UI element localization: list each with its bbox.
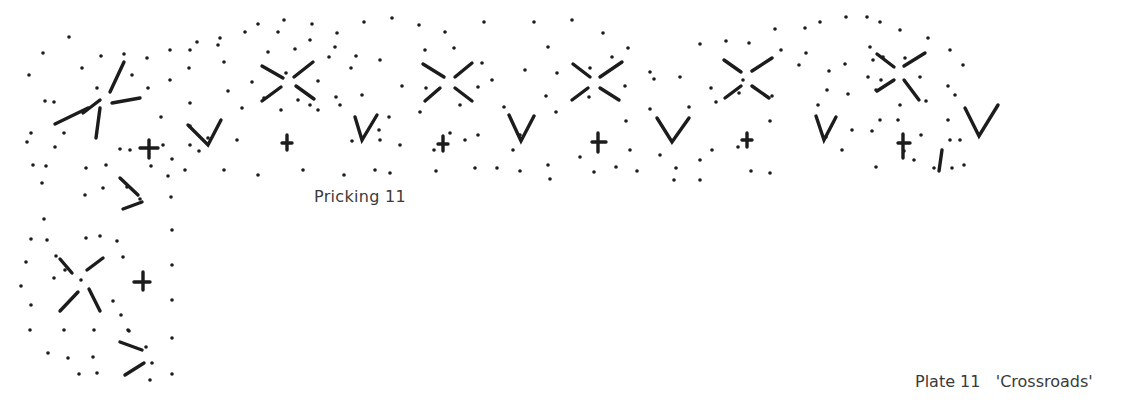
pin-hole-dot: [592, 170, 596, 174]
pin-hole-dot: [138, 197, 142, 201]
pin-hole-dot: [648, 107, 652, 111]
pin-hole-dot: [865, 15, 869, 19]
pin-hole-dot: [946, 84, 950, 88]
pin-hole-dot: [523, 68, 527, 72]
pin-hole-dot: [490, 78, 494, 82]
stitch-mark: [904, 53, 925, 66]
pin-hole-dot: [770, 94, 774, 98]
stitch-mark: [355, 115, 377, 140]
stitch-mark: [55, 108, 88, 124]
pin-hole-dot: [710, 148, 714, 152]
pin-hole-dot: [104, 163, 108, 167]
pin-hole-dot: [946, 118, 950, 122]
stitch-mark: [877, 54, 894, 67]
pin-hole-dot: [354, 54, 358, 58]
pin-hole-dot: [912, 158, 916, 162]
pin-hole-dot: [144, 345, 148, 349]
stitch-mark: [877, 80, 894, 91]
pin-hole-dot: [434, 169, 438, 173]
pin-hole-dot: [80, 66, 84, 70]
pin-hole-dot: [961, 63, 965, 67]
stitch-mark: [296, 86, 314, 99]
pin-hole-dot: [29, 131, 33, 135]
pin-hole-dot: [390, 16, 394, 20]
stitch-mark: [600, 88, 619, 100]
pin-hole-dot: [378, 138, 382, 142]
stitch-mark: [724, 60, 741, 72]
pin-hole-dot: [587, 95, 591, 99]
pin-hole-dot: [463, 138, 467, 142]
pin-hole-dot: [279, 108, 283, 112]
pin-hole-dot: [99, 54, 103, 58]
pin-hole-dot: [458, 103, 462, 107]
pin-hole-dot: [42, 217, 46, 221]
pin-hole-dot: [83, 193, 87, 197]
pin-hole-dot: [52, 100, 56, 104]
stitch-mark: [188, 120, 221, 145]
stitch-mark: [438, 136, 448, 151]
pin-hole-dot: [79, 278, 83, 282]
stitch-mark: [134, 272, 150, 290]
pin-hole-dot: [222, 168, 226, 172]
pin-hole-dot: [874, 165, 878, 169]
pin-hole-dot: [903, 56, 907, 60]
pin-hole-dot: [40, 181, 44, 185]
pin-hole-dot: [797, 63, 801, 67]
stitch-mark: [425, 88, 440, 101]
pin-hole-dot: [128, 148, 132, 152]
stitch-mark: [455, 63, 472, 77]
pin-hole-dot: [282, 18, 286, 22]
pin-hole-dot: [350, 139, 354, 143]
stitch-mark: [816, 116, 836, 140]
pin-hole-dot: [698, 158, 702, 162]
pin-hole-dot: [308, 103, 312, 107]
pin-hole-dot: [749, 169, 753, 173]
pin-hole-dot: [150, 361, 154, 365]
pin-hole-dot: [250, 80, 254, 84]
pin-hole-dot: [149, 164, 153, 168]
pin-hole-dot: [674, 166, 678, 170]
pin-hole-dot: [310, 22, 314, 26]
pin-hole-dot: [126, 328, 130, 332]
pin-hole-dot: [216, 43, 220, 47]
pin-hole-dot: [235, 138, 239, 142]
stitch-mark: [294, 62, 313, 77]
pin-hole-dot: [44, 164, 48, 168]
stitch-mark: [140, 140, 158, 158]
plate-title: 'Crossroads': [996, 372, 1093, 391]
pin-hole-dot: [378, 58, 382, 62]
pin-hole-dot: [918, 75, 922, 79]
pin-hole-dot: [118, 147, 122, 151]
pin-hole-dot: [648, 70, 652, 74]
pin-hole-dot: [423, 48, 427, 52]
stitch-mark: [592, 133, 606, 152]
pin-hole-dot: [495, 166, 499, 170]
pin-hole-dot: [387, 115, 391, 119]
pin-hole-dot: [958, 138, 962, 142]
pin-hole-dot: [544, 94, 548, 98]
pin-hole-dot: [736, 145, 740, 149]
stitch-mark: [657, 118, 689, 142]
pin-hole-dot: [222, 60, 226, 64]
pin-hole-dot: [950, 166, 954, 170]
pin-hole-dot: [398, 143, 402, 147]
pin-hole-dot: [31, 163, 35, 167]
pin-hole-dot: [803, 26, 807, 30]
pin-hole-dot: [101, 186, 105, 190]
pin-hole-dot: [84, 236, 88, 240]
pin-hole-dot: [962, 163, 966, 167]
pin-hole-dot: [170, 228, 174, 232]
pricking-diagram: [0, 0, 1145, 401]
pin-hole-dot: [652, 77, 656, 81]
pin-hole-dot: [98, 234, 102, 238]
pin-hole-dot: [870, 129, 874, 133]
pin-hole-dot: [588, 66, 592, 70]
pin-hole-dot: [698, 178, 702, 182]
pin-hole-dot: [879, 78, 883, 82]
pin-hole-dot: [316, 108, 320, 112]
pin-hole-dot: [554, 110, 558, 114]
pin-hole-dot: [95, 371, 99, 375]
pin-hole-dot: [953, 93, 957, 97]
stitch-mark: [898, 134, 910, 158]
pin-hole-dot: [373, 168, 377, 172]
